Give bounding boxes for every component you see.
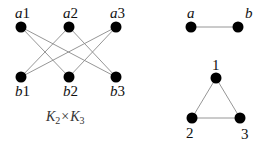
graph-diagram: a1 a2 a3 b1 b2 b3 K2×K3 a b 1 2 3 xyxy=(0,0,269,145)
node-3 xyxy=(235,113,246,124)
node-b xyxy=(233,22,244,33)
label-1: 1 xyxy=(212,57,220,73)
label-a: a xyxy=(187,5,195,21)
node-2 xyxy=(187,113,198,124)
node-a xyxy=(186,22,197,33)
node-a1 xyxy=(16,22,27,33)
product-caption: K2×K3 xyxy=(45,109,85,126)
label-a3: a3 xyxy=(110,5,125,21)
label-a1: a1 xyxy=(15,5,30,21)
node-b2 xyxy=(64,72,75,83)
node-1 xyxy=(211,73,222,84)
node-b1 xyxy=(16,72,27,83)
label-b1: b1 xyxy=(15,83,30,99)
label-b2: b2 xyxy=(63,83,78,99)
label-3: 3 xyxy=(241,126,249,142)
label-b: b xyxy=(245,5,253,21)
node-a2 xyxy=(64,22,75,33)
edge-1-2 xyxy=(192,78,216,118)
product-graph-edges xyxy=(21,27,116,77)
node-a3 xyxy=(111,22,122,33)
label-b3: b3 xyxy=(110,83,125,99)
edge-1-3 xyxy=(216,78,240,118)
node-b3 xyxy=(111,72,122,83)
label-2: 2 xyxy=(186,125,194,141)
label-a2: a2 xyxy=(63,5,78,21)
